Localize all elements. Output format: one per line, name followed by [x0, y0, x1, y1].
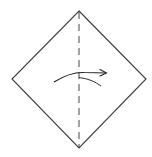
diagram-svg — [0, 0, 152, 157]
paper-diamond — [12, 11, 146, 148]
origami-diagram: Valley fold in half, left to right — [0, 0, 152, 157]
